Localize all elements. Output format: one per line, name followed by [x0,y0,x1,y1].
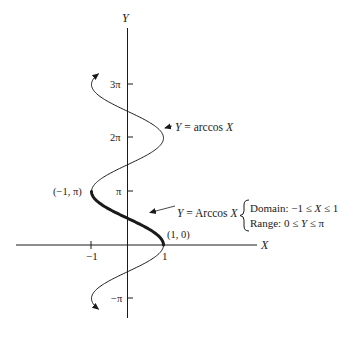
range-text: Range: 0 ≤ Y ≤ π [250,217,325,229]
y-axis-label: Y [122,11,130,25]
relation-label-text: Y = arccos X [175,121,234,133]
curly-brace-icon [240,200,249,231]
domain-text: Domain: −1 ≤ X ≤ 1 [250,202,338,214]
curve-arrow-top-icon [95,74,98,77]
curve-arrow-bottom-icon [95,306,98,309]
x-tick-label-neg1: −1 [86,250,98,262]
domain-range-annotation: Domain: −1 ≤ X ≤ 1 Range: 0 ≤ Y ≤ π [240,200,338,231]
arccos-diagram: X −1 1 Y 3π 2π π −π (−1, π) (1, 0) Y = a… [0,0,363,338]
point-label-neg1-pi: (−1, π) [53,186,82,198]
y-tick-label-neg-pi: −π [111,293,123,304]
y-tick-label-2pi: 2π [110,132,121,143]
relation-pointer-arrow-icon [165,126,172,128]
principal-label: Y = Arccos X [150,206,238,219]
relation-label: Y = arccos X [165,121,234,133]
y-axis: Y 3π 2π π −π [110,11,133,318]
x-tick-label-1: 1 [162,250,168,262]
principal-pointer-arrow-icon [150,206,175,213]
x-axis-label: X [260,238,269,252]
y-tick-label-3pi: 3π [110,79,121,90]
x-axis: X −1 1 [16,238,269,262]
point-label-1-0: (1, 0) [167,229,190,241]
principal-label-text: Y = Arccos X [177,207,238,219]
y-tick-label-pi: π [116,186,122,197]
